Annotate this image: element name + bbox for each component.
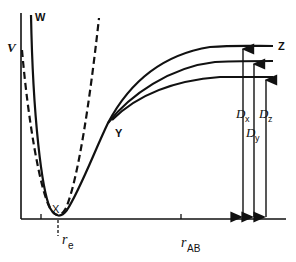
- potential-energy-diagram: V W X Y Z r e r AB D x D y D z: [0, 0, 296, 262]
- dy-label-sub: y: [255, 133, 260, 143]
- y-axis-label: V: [7, 40, 17, 55]
- equilibrium-label-sub: e: [68, 240, 74, 251]
- dx-label-sub: x: [245, 114, 250, 124]
- harmonic-parabola-curve: [22, 18, 99, 215]
- label-x: X: [52, 203, 60, 215]
- dz-label-sub: z: [268, 114, 273, 124]
- label-z: Z: [278, 40, 285, 52]
- x-axis-label-sub: AB: [187, 243, 201, 254]
- label-y: Y: [115, 127, 123, 139]
- label-w: W: [35, 11, 46, 23]
